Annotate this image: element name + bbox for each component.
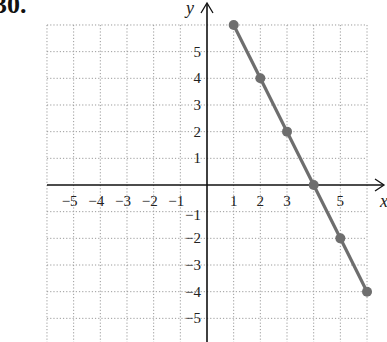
y-tick-label: −3 [185,257,201,273]
x-tick-label: 5 [337,193,345,209]
data-point [229,20,239,30]
x-tick-label: −1 [168,193,184,209]
y-tick-label: 2 [194,124,202,140]
data-point [282,127,292,137]
data-point [309,180,319,190]
x-tick-label: −3 [115,193,131,209]
data-point [255,73,265,83]
data-point [335,233,345,243]
x-tick-label: −2 [142,193,158,209]
x-axis-label: x [379,191,387,211]
x-tick-label: 2 [257,193,265,209]
y-tick-label: 5 [194,44,202,60]
x-tick-label: 3 [283,193,291,209]
x-tick-label: 1 [230,193,238,209]
y-tick-label: 1 [194,150,202,166]
y-tick-label: −1 [185,207,201,223]
y-tick-label: 4 [194,70,202,86]
data-line [234,25,367,292]
x-tick-label: −5 [62,193,78,209]
x-tick-label: −4 [88,193,104,209]
y-tick-label: −4 [185,284,201,300]
coordinate-plane: yx−5−4−3−2−11235−5−4−3−2−112345 [0,0,387,342]
y-axis-label: y [184,0,194,18]
data-point [362,287,372,297]
y-tick-label: −5 [185,310,201,326]
y-tick-label: 3 [194,97,202,113]
y-tick-label: −2 [185,230,201,246]
